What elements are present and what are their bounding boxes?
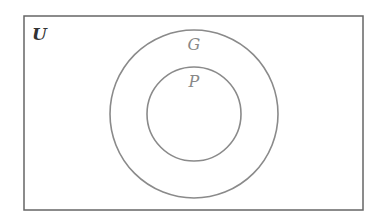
set-g-label: G [188, 35, 201, 54]
universe-label: U [32, 24, 48, 44]
set-g-circle [110, 30, 278, 198]
set-p-label: P [188, 72, 200, 91]
venn-diagram: U G P [0, 0, 386, 221]
